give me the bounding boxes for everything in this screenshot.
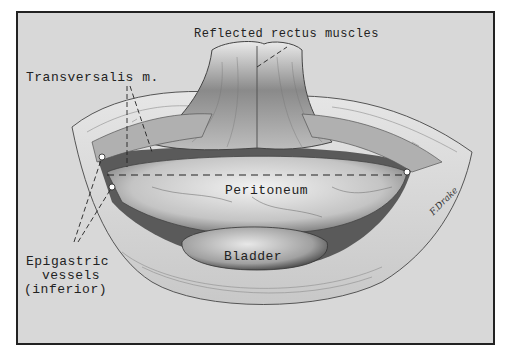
label-peritoneum: Peritoneum	[225, 184, 308, 197]
label-transversalis-muscle: Transversalis m.	[26, 71, 159, 84]
label-epigastric-line1: Epigastric	[26, 255, 109, 268]
label-epigastric-line2: vessels	[42, 269, 100, 282]
label-epigastric-line3: (inferior)	[24, 283, 107, 296]
label-reflected-rectus-muscles: Reflected rectus muscles	[194, 28, 379, 40]
label-bladder: Bladder	[224, 250, 282, 263]
illustration-frame: Reflected rectus muscles Transversalis m…	[16, 11, 495, 345]
